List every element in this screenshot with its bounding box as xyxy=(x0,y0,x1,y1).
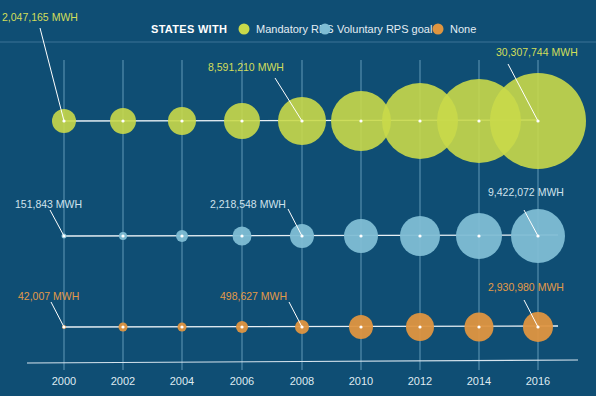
rps-bubble-chart: STATES WITH Mandatory RPS Voluntary RPS … xyxy=(0,0,596,396)
bubble-center-dot xyxy=(477,325,480,328)
annotation-label: 2,218,548 MWH xyxy=(210,198,286,210)
legend-label-voluntary: Voluntary RPS goal xyxy=(337,23,432,35)
bubble-center-dot xyxy=(121,119,124,122)
annotation-label: 8,591,210 MWH xyxy=(208,61,284,73)
annotation-label: 30,307,744 MWH xyxy=(496,46,578,58)
bubble-center-dot xyxy=(418,234,421,237)
legend-swatch-none-icon xyxy=(433,24,444,35)
bubble-center-dot xyxy=(359,325,362,328)
bubble-center-dot xyxy=(359,234,362,237)
legend-swatch-mandatory-icon xyxy=(239,24,250,35)
bubble-center-dot xyxy=(180,234,183,237)
bubble-center-dot xyxy=(121,234,124,237)
bubble-center-dot xyxy=(121,325,124,328)
bubble-center-dot xyxy=(180,325,183,328)
bubble-center-dot xyxy=(240,119,243,122)
annotation-label: 151,843 MWH xyxy=(15,198,82,210)
x-tick-label-2010: 2010 xyxy=(349,375,373,387)
x-tick-label-2014: 2014 xyxy=(467,375,491,387)
x-tick-label-2012: 2012 xyxy=(408,375,432,387)
legend: STATES WITH Mandatory RPS Voluntary RPS … xyxy=(151,23,476,35)
bubble-center-dot xyxy=(359,119,362,122)
chart-background xyxy=(0,0,596,396)
annotation-label: 2,047,165 MWH xyxy=(2,11,78,23)
annotation-label: 498,627 MWH xyxy=(220,290,287,302)
legend-label-none: None xyxy=(450,23,476,35)
x-tick-label-2000: 2000 xyxy=(52,375,76,387)
x-tick-label-2004: 2004 xyxy=(170,375,194,387)
x-tick-label-2008: 2008 xyxy=(290,375,314,387)
bubble-center-dot xyxy=(180,119,183,122)
legend-swatch-voluntary-icon xyxy=(320,24,331,35)
annotation-label: 9,422,072 MWH xyxy=(488,186,564,198)
bubble-center-dot xyxy=(477,234,480,237)
annotation-label: 42,007 MWH xyxy=(18,290,79,302)
annotation-label: 2,930,980 MWH xyxy=(488,281,564,293)
bubble-center-dot xyxy=(418,119,421,122)
bubble-center-dot xyxy=(418,325,421,328)
bubble-center-dot xyxy=(240,325,243,328)
bubble-center-dot xyxy=(240,234,243,237)
legend-title: STATES WITH xyxy=(151,23,227,35)
bubble-center-dot xyxy=(477,119,480,122)
x-tick-label-2002: 2002 xyxy=(111,375,135,387)
x-axis-ticks: 200020022004200620082010201220142016 xyxy=(52,375,550,387)
x-tick-label-2006: 2006 xyxy=(230,375,254,387)
x-tick-label-2016: 2016 xyxy=(526,375,550,387)
